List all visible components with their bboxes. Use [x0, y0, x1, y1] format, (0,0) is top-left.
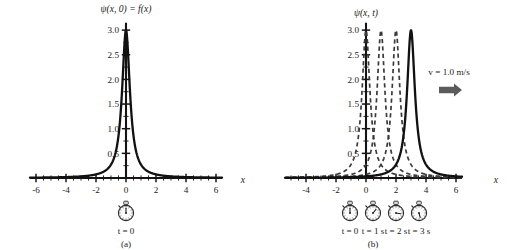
stopwatch-icon [118, 201, 133, 220]
pulse-curve-t-3-s [285, 30, 462, 177]
svg-text:0: 0 [124, 185, 129, 195]
panel-b-caption: (b) [368, 239, 379, 249]
stopwatch-icon [388, 201, 403, 220]
svg-text:1.0: 1.0 [108, 124, 120, 134]
panel-b-clock-labels: t = 0t = 1 st = 2 st = 3 s [342, 226, 431, 236]
stopwatch-icon [365, 201, 380, 220]
svg-text:2.0: 2.0 [348, 75, 360, 85]
panel-b-x-axis-label: x [493, 174, 499, 185]
wave-pulse-figure: ψ(x, 0) = f(x) -6-4-202460.51.01.52.02.5… [0, 0, 507, 250]
svg-text:-2: -2 [92, 185, 100, 195]
svg-text:0: 0 [364, 185, 369, 195]
svg-text:4: 4 [184, 185, 189, 195]
svg-text:3.0: 3.0 [348, 25, 360, 35]
panel-b-title: ψ(x, t) [354, 7, 378, 19]
svg-text:1.5: 1.5 [348, 99, 360, 109]
svg-text:-6: -6 [32, 185, 40, 195]
stopwatch-icon [342, 201, 357, 220]
stopwatch-icon [411, 201, 426, 220]
pulse-curve-t-2-s [285, 30, 462, 177]
panel-a-caption: (a) [121, 239, 131, 249]
panel-b-clock-label: t = 0 [342, 226, 359, 236]
pulse-curve-t-0-s [285, 30, 462, 177]
panel-b-clock-label: t = 2 s [385, 226, 408, 236]
svg-text:4: 4 [424, 185, 429, 195]
svg-text:-4: -4 [62, 185, 70, 195]
panel-a-x-axis-label: x [240, 174, 246, 185]
panel-a-clock-label: t = 0 [118, 226, 135, 236]
panel-a-title: ψ(x, 0) = f(x) [101, 3, 152, 15]
svg-text:2.5: 2.5 [108, 50, 120, 60]
panel-b-tick-labels: -4-202460.51.01.52.02.53.0 [302, 25, 459, 195]
svg-text:2.5: 2.5 [348, 50, 360, 60]
svg-text:2: 2 [154, 185, 159, 195]
svg-text:1.0: 1.0 [348, 124, 360, 134]
panel-b-axes [285, 23, 462, 182]
svg-text:1.5: 1.5 [108, 99, 120, 109]
panel-a: ψ(x, 0) = f(x) -6-4-202460.51.01.52.02.5… [0, 0, 253, 250]
panel-b: ψ(x, t) -4-202460.51.01.52.02.53.0 x v =… [253, 0, 506, 250]
panel-a-axes [30, 23, 222, 182]
panel-a-plot: ψ(x, 0) = f(x) -6-4-202460.51.01.52.02.5… [0, 0, 253, 250]
pulse-curves-group [285, 30, 462, 177]
svg-text:-2: -2 [332, 185, 340, 195]
panel-b-clock-label: t = 3 s [408, 226, 431, 236]
pulse-curve-t-1-s [285, 30, 462, 177]
svg-text:6: 6 [214, 185, 219, 195]
panel-b-plot: ψ(x, t) -4-202460.51.01.52.02.53.0 x v =… [253, 0, 506, 250]
velocity-label: v = 1.0 m/s [428, 67, 470, 77]
svg-text:-4: -4 [302, 185, 310, 195]
svg-text:3.0: 3.0 [108, 25, 120, 35]
right-arrow-icon [439, 83, 462, 96]
svg-text:2.0: 2.0 [108, 75, 120, 85]
svg-text:6: 6 [454, 185, 459, 195]
stopwatch-icons-group [342, 201, 426, 220]
panel-b-clock-label: t = 1 s [362, 226, 385, 236]
svg-text:2: 2 [394, 185, 399, 195]
